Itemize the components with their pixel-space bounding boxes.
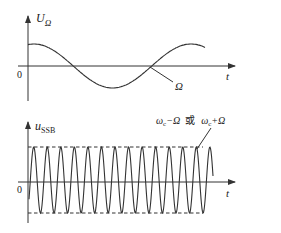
top-x-label: t — [226, 70, 230, 82]
annotation-leader-line — [197, 128, 211, 149]
omega-leader-line — [150, 67, 173, 82]
omega-curve-label: Ω — [175, 80, 183, 92]
bottom-origin-label: 0 — [17, 184, 22, 195]
bottom-y-label: uSSB — [35, 119, 55, 135]
ssb-waveform-diagram: UΩ 0 t Ω uSSB 0 t ωc−Ω或ωc+Ω — [0, 0, 281, 233]
top-y-label: UΩ — [36, 11, 52, 28]
bottom-x-label: t — [226, 187, 230, 199]
ssb-carrier-waveform — [29, 147, 213, 213]
frequency-annotation: ωc−Ω或ωc+Ω — [156, 115, 225, 128]
modulating-signal-plot: UΩ 0 t Ω — [17, 11, 235, 101]
ssb-signal-plot: uSSB 0 t ωc−Ω或ωc+Ω — [17, 115, 235, 223]
top-origin-label: 0 — [17, 69, 22, 80]
